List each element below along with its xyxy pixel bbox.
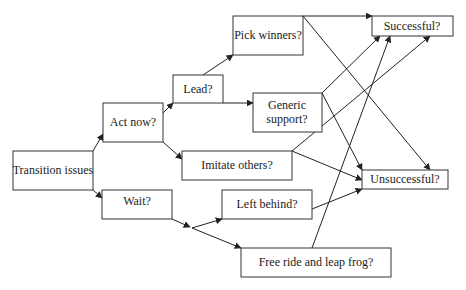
edge-imitate-to-unsuccessful <box>292 151 362 180</box>
node-label: Free ride and leap frog? <box>259 255 374 269</box>
node-label: Pick winners? <box>234 28 302 42</box>
edge-free-ride-to-successful <box>312 36 390 248</box>
edge-transition-to-act-now <box>93 134 103 151</box>
node-act-now: Act now? <box>103 103 163 142</box>
node-label-line2: support? <box>266 112 307 126</box>
node-left-behind: Left behind? <box>222 190 312 219</box>
node-label: Unsuccessful? <box>370 172 439 186</box>
node-wait: Wait? <box>102 190 172 219</box>
node-unsuccessful: Unsuccessful? <box>362 170 448 189</box>
edge-junction-to-free-ride <box>192 228 241 248</box>
node-label: Successful? <box>384 19 441 33</box>
node-label: Act now? <box>110 115 156 129</box>
edge-left-behind-to-unsuccessful <box>312 189 362 209</box>
edge-generic-support-to-unsuccessful <box>322 93 362 170</box>
node-lead: Lead? <box>173 75 223 103</box>
node-label: Transition issues <box>13 163 94 177</box>
edge-act-now-to-lead <box>163 103 173 113</box>
flowchart-diagram: Transition issues Act now? Lead? Pick wi… <box>0 0 466 290</box>
edge-junction-to-left-behind <box>192 219 222 228</box>
node-free-ride-leap-frog: Free ride and leap frog? <box>241 248 391 277</box>
edge-transition-to-wait <box>93 190 102 198</box>
edge-act-now-to-imitate <box>163 142 182 159</box>
node-successful: Successful? <box>372 16 453 36</box>
node-label: Left behind? <box>237 197 298 211</box>
node-generic-support: Generic support? <box>253 93 322 132</box>
node-label: Lead? <box>183 82 212 96</box>
node-label: Imitate others? <box>201 158 273 172</box>
node-label: Wait? <box>123 194 151 208</box>
node-pick-winners: Pick winners? <box>233 16 303 55</box>
node-transition-issues: Transition issues <box>13 151 94 190</box>
edge-lead-to-pick-winners <box>203 55 233 75</box>
edge-wait-to-junction <box>172 219 190 227</box>
node-label-line1: Generic <box>268 98 306 112</box>
node-imitate-others: Imitate others? <box>182 151 292 180</box>
